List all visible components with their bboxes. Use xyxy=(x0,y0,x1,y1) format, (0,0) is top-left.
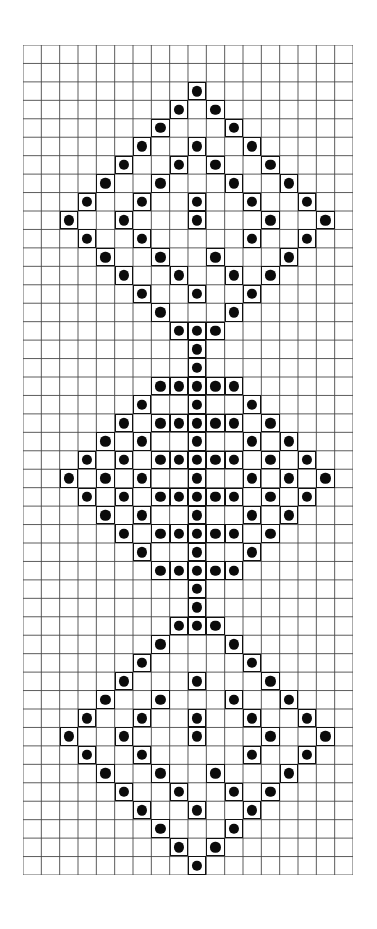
bead-cell xyxy=(133,285,151,303)
bead-cell xyxy=(78,229,96,247)
bead-cell xyxy=(151,764,169,782)
bead-dot-icon xyxy=(265,160,275,171)
bead-dot-icon xyxy=(119,160,129,171)
bead-cell xyxy=(206,488,224,506)
bead-cell xyxy=(225,783,243,801)
bead-cell xyxy=(96,764,114,782)
bead-cell xyxy=(188,672,206,690)
bead-dot-icon xyxy=(82,750,92,761)
bead-dot-icon xyxy=(210,621,220,632)
bead-dot-icon xyxy=(137,233,147,244)
bead-cell xyxy=(170,524,188,542)
bead-cell xyxy=(225,524,243,542)
bead-dot-icon xyxy=(247,510,257,521)
bead-cell xyxy=(206,838,224,856)
bead-cell xyxy=(115,211,133,229)
bead-cell xyxy=(188,543,206,561)
bead-dot-icon xyxy=(247,141,257,152)
bead-dot-icon xyxy=(265,731,275,742)
page-title: Beadwork / Cross-Stitch Diamond Motif Ch… xyxy=(0,21,1,22)
bead-cell xyxy=(206,377,224,395)
bead-cell xyxy=(243,285,261,303)
bead-cell xyxy=(151,119,169,137)
bead-dot-icon xyxy=(192,473,202,484)
bead-cell xyxy=(115,156,133,174)
bead-cell xyxy=(151,451,169,469)
bead-dot-icon xyxy=(302,713,312,724)
bead-dot-icon xyxy=(302,196,312,207)
bead-cell xyxy=(78,451,96,469)
bead-cell xyxy=(261,451,279,469)
bead-dot-icon xyxy=(155,123,165,134)
bead-dot-icon xyxy=(100,178,110,189)
bead-dot-icon xyxy=(229,565,239,576)
bead-cell xyxy=(280,432,298,450)
bead-cell xyxy=(78,488,96,506)
bead-cell xyxy=(243,709,261,727)
bead-dot-icon xyxy=(100,768,110,779)
bead-cell xyxy=(316,727,334,745)
bead-cell xyxy=(298,451,316,469)
bead-dot-icon xyxy=(192,676,202,687)
bead-dot-icon xyxy=(82,492,92,503)
bead-cell xyxy=(60,211,78,229)
bead-dot-icon xyxy=(247,805,257,816)
bead-dot-icon xyxy=(320,473,330,484)
bead-dot-icon xyxy=(265,528,275,539)
bead-dot-icon xyxy=(119,455,129,466)
bead-pattern-layer xyxy=(23,45,353,875)
bead-dot-icon xyxy=(82,713,92,724)
bead-dot-icon xyxy=(284,510,294,521)
bead-dot-icon xyxy=(284,768,294,779)
bead-cell xyxy=(188,617,206,635)
bead-dot-icon xyxy=(229,381,239,392)
bead-dot-icon xyxy=(119,215,129,226)
bead-cell xyxy=(280,469,298,487)
bead-cell xyxy=(188,395,206,413)
bead-dot-icon xyxy=(119,492,129,503)
bead-dot-icon xyxy=(192,731,202,742)
bead-cell xyxy=(133,469,151,487)
bead-cell xyxy=(133,137,151,155)
bead-dot-icon xyxy=(137,510,147,521)
bead-cell xyxy=(170,561,188,579)
bead-cell xyxy=(261,783,279,801)
bead-dot-icon xyxy=(302,492,312,503)
bead-cell xyxy=(115,488,133,506)
bead-dot-icon xyxy=(302,455,312,466)
bead-cell xyxy=(133,654,151,672)
bead-dot-icon xyxy=(155,639,165,650)
bead-cell xyxy=(261,266,279,284)
bead-dot-icon xyxy=(265,270,275,281)
bead-dot-icon xyxy=(100,473,110,484)
bead-cell xyxy=(151,819,169,837)
bead-dot-icon xyxy=(192,289,202,300)
bead-cell xyxy=(225,303,243,321)
bead-dot-icon xyxy=(192,510,202,521)
bead-dot-icon xyxy=(210,418,220,429)
bead-dot-icon xyxy=(229,694,239,705)
bead-dot-icon xyxy=(229,639,239,650)
bead-dot-icon xyxy=(284,252,294,263)
bead-cell xyxy=(115,451,133,469)
bead-dot-icon xyxy=(100,252,110,263)
bead-dot-icon xyxy=(265,676,275,687)
bead-dot-icon xyxy=(155,823,165,834)
pattern-chart-page: Beadwork / Cross-Stitch Diamond Motif Ch… xyxy=(0,0,377,929)
bead-cell xyxy=(225,377,243,395)
bead-cell xyxy=(60,469,78,487)
bead-dot-icon xyxy=(229,307,239,318)
bead-dot-icon xyxy=(137,713,147,724)
bead-dot-icon xyxy=(210,455,220,466)
bead-dot-icon xyxy=(174,381,184,392)
bead-dot-icon xyxy=(192,528,202,539)
bead-dot-icon xyxy=(192,86,202,97)
bead-cell xyxy=(261,672,279,690)
bead-dot-icon xyxy=(174,160,184,171)
bead-dot-icon xyxy=(192,602,202,613)
bead-dot-icon xyxy=(174,492,184,503)
bead-cell xyxy=(96,506,114,524)
bead-dot-icon xyxy=(192,215,202,226)
bead-cell xyxy=(316,211,334,229)
bead-cell xyxy=(243,395,261,413)
